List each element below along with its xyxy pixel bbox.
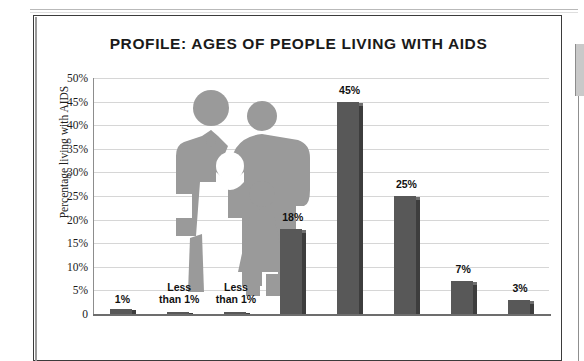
bar-side-face [530,304,534,315]
bar-slot: 18% [264,78,321,314]
bar[interactable] [280,229,302,314]
bar-side-face [416,200,420,314]
y-tick-label: 10% [67,261,88,273]
bar-value-label: 7% [435,264,492,276]
bar[interactable] [508,300,530,314]
bar-top-edge [530,301,534,304]
bar-value-label: Less than 1% [151,282,208,305]
y-tick-label: 40% [67,119,88,131]
x-axis-line [93,314,551,316]
bar-top-edge [473,282,477,285]
page-top-rule [30,9,578,10]
bar[interactable] [337,102,359,314]
y-tick-label: 35% [67,143,88,155]
y-tick-label: 20% [67,214,88,226]
bar-slot: 1% [94,78,151,314]
bar[interactable] [394,196,416,314]
bar[interactable] [451,281,473,314]
page-top-rule-secondary [30,12,578,13]
page-edge-line [578,96,579,361]
y-tick-label: 45% [67,96,88,108]
bar-value-label-line1: 45% [321,85,378,97]
bar-slot: 7% [435,78,492,314]
bar-value-label-line1: 1% [94,294,151,306]
bar-value-label-line1: 7% [435,264,492,276]
bar-slot: 45% [321,78,378,314]
bar-top-edge [416,197,420,200]
bar-value-label-line2: than 1% [151,294,208,306]
bar-slot: Less than 1% [151,78,208,314]
bar-slot: 25% [378,78,435,314]
chart-frame: PROFILE: AGES OF PEOPLE LIVING WITH AIDS… [33,15,562,361]
y-tick-label: 30% [67,166,88,178]
plot-area: 50% 45% 40% 35% 30% 25% 20% 15% 10% 5% 0 [94,78,549,314]
chart-title: PROFILE: AGES OF PEOPLE LIVING WITH AIDS [34,35,563,53]
bar-top-edge [302,230,306,233]
page-canvas: PROFILE: AGES OF PEOPLE LIVING WITH AIDS… [0,0,584,361]
bar-slot: Less than 1% [208,78,265,314]
bar-value-label-line2: than 1% [208,294,265,306]
bar-side-face [473,285,477,314]
bar-value-label: 25% [378,179,435,191]
bar-value-label-line1: 25% [378,179,435,191]
bar-value-label: 1% [94,294,151,306]
bar-side-face [302,233,306,314]
y-tick-label: 5% [73,284,88,296]
bar-value-label: 18% [264,212,321,224]
bar-slot: 3% [492,78,549,314]
y-tick-label: 15% [67,237,88,249]
bar-value-label: 3% [492,283,549,295]
bar-value-label: 45% [321,85,378,97]
page-edge-artifact [575,44,584,96]
y-tick-label: 25% [67,190,88,202]
bar-value-label: Less than 1% [208,282,265,305]
bar-value-label-line1: 3% [492,283,549,295]
bar-value-label-line1: 18% [264,212,321,224]
y-tick-label: 50% [67,72,88,84]
bar-top-edge [359,103,363,106]
y-tick-label: 0 [82,308,88,320]
bar-side-face [359,106,363,314]
